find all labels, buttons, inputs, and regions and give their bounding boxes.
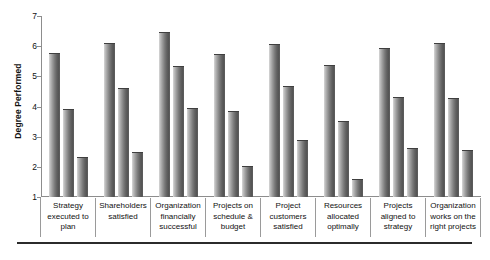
category-label-table: Strategyexecuted toplanShareholderssatis… [41, 198, 481, 237]
bar-group [49, 16, 96, 197]
y-tick-label: 1 [32, 193, 37, 202]
category-label-cell: Resourcesallocatedoptimally [315, 198, 371, 237]
y-axis-title: Degree Performed [13, 46, 23, 156]
bar [132, 152, 143, 197]
category-label: Projects onschedule &budget [206, 201, 260, 233]
category-label-cell: Projects onschedule &budget [205, 198, 261, 237]
y-tick-mark [37, 137, 41, 138]
bar [104, 43, 115, 197]
category-label-cell: Strategyexecuted toplan [40, 198, 96, 237]
y-tick-label: 3 [32, 132, 37, 141]
bar [228, 111, 239, 197]
bar [324, 65, 335, 197]
bar [434, 43, 445, 197]
bar [242, 166, 253, 197]
category-label-cell: Projectcustomerssatisfied [260, 198, 316, 237]
bar [159, 32, 170, 197]
bar-chart: Degree Performed 1234567 Strategyexecute… [0, 0, 490, 260]
bar [77, 157, 88, 197]
bar-group [214, 16, 261, 197]
bar [269, 44, 280, 197]
y-axis-line [41, 16, 42, 197]
bar [63, 109, 74, 197]
bottom-rule [17, 242, 472, 244]
category-label-cell: Organizationworks on theright projects [425, 198, 481, 237]
bar [407, 148, 418, 197]
y-tick-mark [37, 16, 41, 17]
plot-area: 1234567 [41, 16, 481, 197]
y-tick-label: 6 [32, 42, 37, 51]
bar [214, 54, 225, 197]
y-tick-mark [37, 167, 41, 168]
bar [283, 86, 294, 197]
y-tick-label: 2 [32, 163, 37, 172]
category-label: Shareholderssatisfied [96, 201, 150, 222]
bar-group [379, 16, 426, 197]
bar [352, 179, 363, 197]
bar [187, 108, 198, 197]
y-tick-mark [37, 46, 41, 47]
bar-group [434, 16, 481, 197]
bar [462, 150, 473, 197]
bar [338, 121, 349, 197]
category-label-cell: Organizationfinanciallysuccessful [150, 198, 206, 237]
y-tick-label: 4 [32, 102, 37, 111]
category-label-cell: Shareholderssatisfied [95, 198, 151, 237]
y-tick-mark [37, 76, 41, 77]
category-label: Resourcesallocatedoptimally [316, 201, 370, 233]
bar [379, 48, 390, 197]
y-tick-mark [37, 107, 41, 108]
bar-group [159, 16, 206, 197]
category-label: Organizationfinanciallysuccessful [151, 201, 205, 233]
bar [49, 53, 60, 197]
bar-group [269, 16, 316, 197]
category-label-cell: Projectsaligned tostrategy [370, 198, 426, 237]
category-label: Strategyexecuted toplan [41, 201, 95, 233]
y-tick-label: 5 [32, 72, 37, 81]
category-label: Projectsaligned tostrategy [371, 201, 425, 233]
bar [448, 98, 459, 197]
bar [393, 97, 404, 197]
category-label: Organizationworks on theright projects [426, 201, 480, 233]
bar-group [324, 16, 371, 197]
bar [297, 140, 308, 197]
bar [173, 66, 184, 197]
y-tick-label: 7 [32, 12, 37, 21]
bar [118, 88, 129, 197]
category-label: Projectcustomerssatisfied [261, 201, 315, 233]
bar-group [104, 16, 151, 197]
